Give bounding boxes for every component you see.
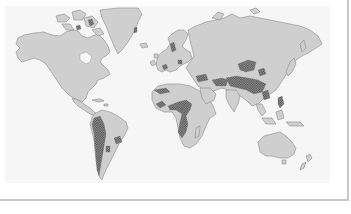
north-america — [16, 10, 110, 116]
australia — [258, 132, 296, 164]
europe — [150, 30, 192, 72]
new-zealand — [300, 154, 312, 170]
world-map — [0, 0, 351, 214]
south-america — [90, 110, 128, 180]
